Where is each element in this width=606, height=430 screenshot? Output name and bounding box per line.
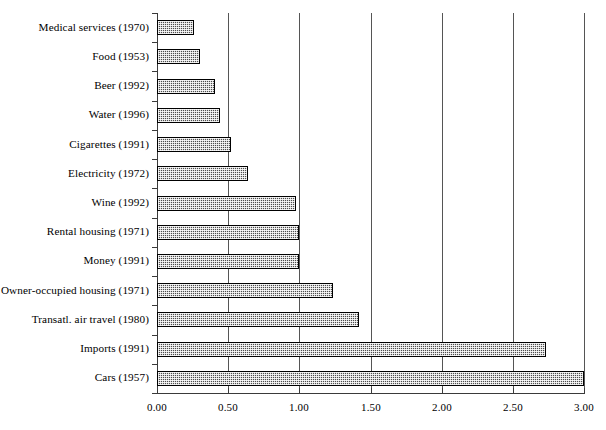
- x-axis-tick-1.50: [371, 388, 372, 393]
- x-axis-tick-2.00: [442, 388, 443, 393]
- y-axis-tick: [152, 364, 157, 365]
- plot-area: [157, 13, 584, 393]
- bar: [157, 312, 359, 327]
- category-label: Transatl. air travel (1980): [32, 313, 149, 325]
- bar: [157, 196, 296, 211]
- category-label: Water (1996): [89, 108, 149, 120]
- y-axis-tick: [152, 218, 157, 219]
- chart-canvas: 0.000.501.001.502.002.503.00 Medical ser…: [0, 0, 606, 430]
- bar: [157, 49, 200, 64]
- y-axis-tick: [152, 71, 157, 72]
- category-label: Cigarettes (1991): [69, 138, 149, 150]
- category-label: Electricity (1972): [68, 167, 149, 179]
- y-axis-tick: [152, 130, 157, 131]
- x-axis-line: [157, 393, 585, 394]
- x-axis-tick-label: 0.50: [218, 401, 238, 413]
- x-axis-tick-0.00: [157, 388, 158, 393]
- bar: [157, 225, 299, 240]
- y-axis-tick: [152, 335, 157, 336]
- x-axis-tick-label: 1.50: [361, 401, 381, 413]
- y-axis-tick: [152, 42, 157, 43]
- gridline-1.50: [371, 13, 372, 393]
- x-axis-tick-1.00: [299, 388, 300, 393]
- y-axis-tick: [152, 276, 157, 277]
- category-label: Medical services (1970): [39, 21, 149, 33]
- gridline-3.00: [584, 13, 585, 393]
- bar: [157, 254, 299, 269]
- bar: [157, 137, 231, 152]
- y-axis-tick: [152, 188, 157, 189]
- y-axis-tick: [152, 13, 157, 14]
- y-axis-tick: [152, 159, 157, 160]
- x-axis-tick-label: 3.00: [574, 401, 594, 413]
- bar: [157, 166, 248, 181]
- category-label: Owner-occupied housing (1971): [1, 284, 149, 296]
- x-axis-tick-label: 1.00: [289, 401, 309, 413]
- y-axis-tick: [152, 247, 157, 248]
- category-label: Cars (1957): [95, 371, 149, 383]
- y-axis-tick: [152, 393, 157, 394]
- category-label: Imports (1991): [80, 342, 149, 354]
- bar: [157, 283, 333, 298]
- x-axis-tick-label: 2.00: [432, 401, 452, 413]
- category-label: Beer (1992): [94, 79, 149, 91]
- category-label: Money (1991): [83, 254, 149, 266]
- category-label: Wine (1992): [91, 196, 149, 208]
- x-axis-tick-0.50: [228, 388, 229, 393]
- x-axis-tick-label: 0.00: [147, 401, 167, 413]
- y-axis-tick: [152, 101, 157, 102]
- y-axis-tick: [152, 305, 157, 306]
- bar: [157, 342, 546, 357]
- x-axis-tick-2.50: [513, 388, 514, 393]
- gridline-1.00: [299, 13, 300, 393]
- category-label: Rental housing (1971): [47, 225, 149, 237]
- category-label: Food (1953): [92, 50, 149, 62]
- bar: [157, 20, 194, 35]
- x-axis-tick-3.00: [584, 388, 585, 393]
- bar: [157, 371, 584, 386]
- gridline-2.00: [442, 13, 443, 393]
- bar: [157, 108, 220, 123]
- bar: [157, 79, 215, 94]
- gridline-2.50: [513, 13, 514, 393]
- x-axis-tick-label: 2.50: [503, 401, 523, 413]
